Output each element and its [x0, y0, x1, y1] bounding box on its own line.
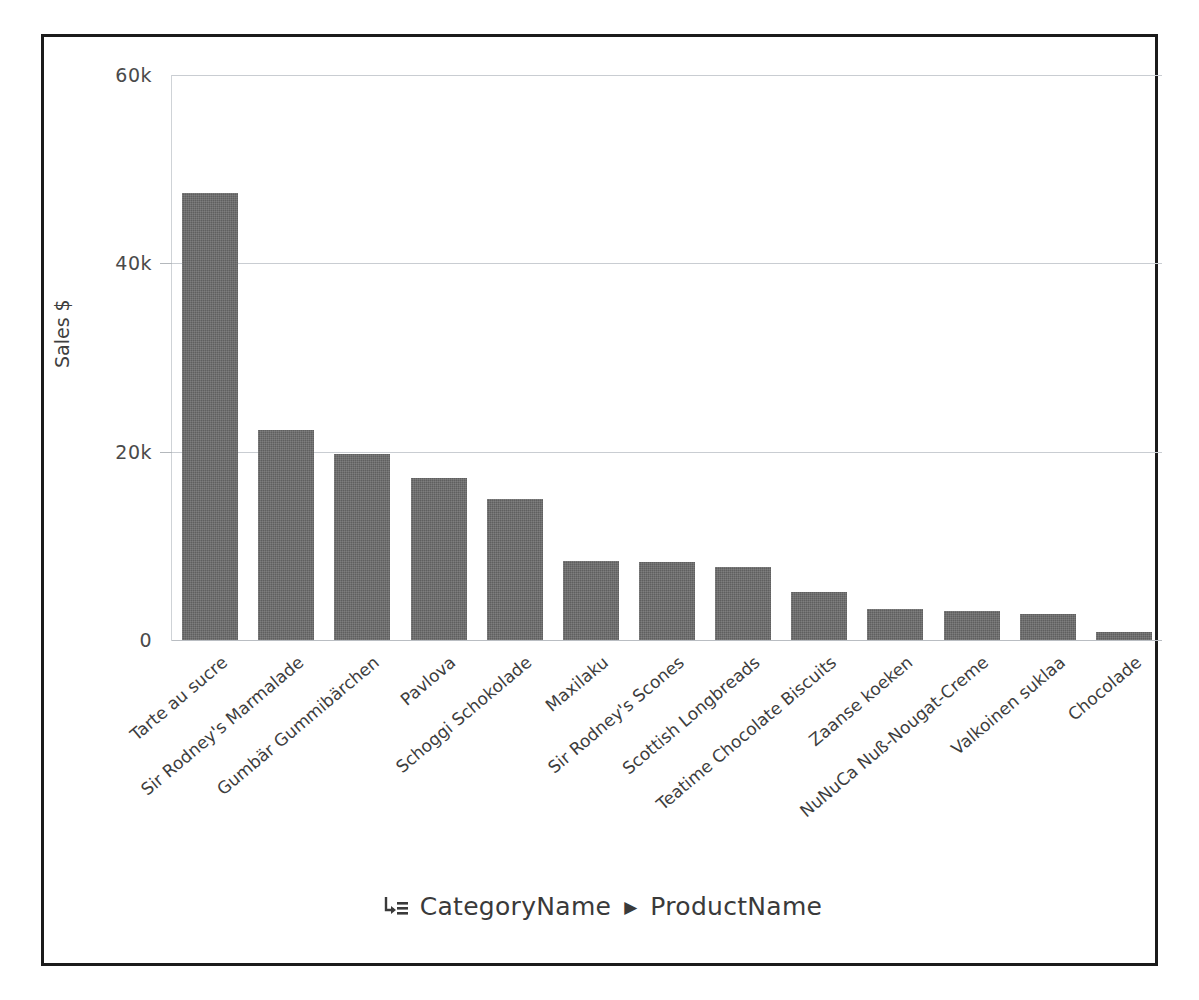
bar[interactable] [411, 478, 467, 640]
y-tick-label-20k: 20k [115, 441, 152, 463]
drill-separator-icon: ▶ [622, 897, 639, 917]
gridline-0 [172, 640, 1162, 641]
y-tick-mark-20k [160, 452, 172, 453]
bar[interactable] [639, 562, 695, 640]
y-tick-label-0: 0 [139, 629, 152, 651]
gridline-60000 [172, 75, 1162, 76]
bar[interactable] [1020, 614, 1076, 640]
bar[interactable] [715, 567, 771, 640]
y-tick-label-40k: 40k [115, 252, 152, 274]
bar[interactable] [258, 430, 314, 640]
y-tick-mark-40k [160, 263, 172, 264]
bar[interactable] [563, 561, 619, 640]
drill-level-2-label[interactable]: ProductName [650, 892, 822, 921]
x-tick-label[interactable]: Schoggi Schokolade [392, 652, 535, 777]
y-tick-label-60k: 60k [115, 64, 152, 86]
drill-down-icon [383, 895, 409, 919]
x-tick-label[interactable]: Sir Rodney's Scones [544, 652, 688, 777]
gridline-40000 [172, 263, 1162, 264]
bar[interactable] [791, 592, 847, 640]
x-tick-label[interactable]: Scottish Longbreads [619, 652, 764, 778]
bar[interactable] [487, 499, 543, 640]
bar[interactable] [334, 454, 390, 640]
y-axis-tick-labels: 020k40k60k [44, 37, 152, 969]
plot-area [172, 75, 1162, 640]
chart-page-frame: Sales $ 020k40k60k Tarte au sucreSir Rod… [41, 34, 1158, 966]
drill-path-legend[interactable]: CategoryName ▶ ProductName [44, 892, 1161, 921]
bar[interactable] [1096, 632, 1152, 640]
x-tick-label[interactable]: Chocolade [1064, 652, 1145, 725]
bar[interactable] [944, 611, 1000, 640]
x-tick-label[interactable]: Pavlova [396, 652, 459, 709]
x-tick-label[interactable]: Maxilaku [541, 652, 611, 716]
bar[interactable] [182, 193, 238, 640]
bar-chart: Sales $ 020k40k60k Tarte au sucreSir Rod… [44, 37, 1161, 969]
bar[interactable] [867, 609, 923, 640]
gridline-20000 [172, 452, 1162, 453]
drill-level-1-label[interactable]: CategoryName [420, 892, 612, 921]
